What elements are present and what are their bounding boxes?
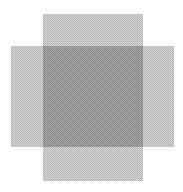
overlap-region [43,46,143,147]
